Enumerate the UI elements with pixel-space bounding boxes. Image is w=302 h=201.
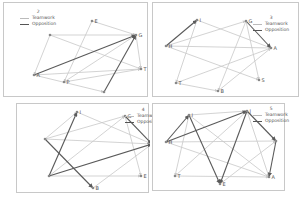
node-H [49, 34, 52, 37]
node-G [245, 20, 248, 23]
edge-opposition [34, 35, 136, 75]
edge-opposition [166, 111, 247, 142]
node-label: G [139, 32, 143, 38]
node-G [135, 34, 138, 37]
edge-teamwork [176, 83, 218, 91]
node-label: H [169, 139, 173, 145]
node-T [140, 68, 143, 71]
edge-opposition [269, 141, 276, 177]
edge-teamwork [93, 144, 150, 188]
edge-opposition [49, 112, 77, 176]
node-B [92, 187, 95, 190]
node-E [219, 183, 222, 186]
node-H [165, 141, 168, 144]
node-label: S [262, 77, 265, 83]
edge-opposition [220, 111, 247, 184]
edge-teamwork [189, 115, 269, 177]
node-A [268, 176, 271, 179]
edge-teamwork [218, 48, 271, 91]
edge-teamwork [218, 21, 246, 91]
node-label: P [67, 79, 70, 85]
network-panel-5: IJHTEA 5 Teamwork Opposition [152, 103, 285, 191]
node-H [165, 45, 168, 48]
teamwork-swatch [253, 115, 262, 116]
edge-teamwork [166, 46, 259, 80]
edge-opposition [189, 115, 220, 184]
edge-teamwork [45, 112, 77, 139]
node-I [196, 19, 199, 22]
edge-teamwork [45, 139, 150, 144]
node-A [270, 47, 273, 50]
edge-opposition [49, 144, 150, 176]
node-label: A [272, 174, 276, 180]
node-label: E [95, 18, 98, 24]
node-label: I [80, 109, 81, 115]
node-label: A [274, 45, 278, 51]
edge-opposition [45, 139, 93, 188]
legend-3: 3 Teamwork Opposition [253, 15, 289, 33]
network-panel-4: IGAEB 4 Teamwork Opposition [16, 103, 149, 193]
node-label: J [249, 108, 251, 114]
node-label: B [221, 88, 225, 94]
node-H [44, 138, 47, 141]
network-panel-2: AEGTP 2 Teamwork Opposition [3, 2, 148, 97]
node-label: E [223, 181, 226, 187]
node-label: H [169, 43, 173, 49]
opposition-swatch [125, 122, 134, 123]
teamwork-swatch [20, 18, 29, 19]
edge-teamwork [166, 46, 271, 48]
opposition-swatch [253, 121, 262, 122]
network-panel-3: HIGASTB 3 Teamwork Opposition [152, 2, 299, 97]
node-B [217, 90, 220, 93]
node-I [188, 114, 191, 117]
node-label: T [143, 66, 148, 72]
edge-teamwork [136, 35, 141, 69]
edge-teamwork [34, 35, 50, 75]
node-B [103, 91, 106, 94]
teamwork-swatch [253, 24, 262, 25]
node-A [33, 74, 36, 77]
edge-teamwork [175, 176, 269, 177]
edge-opposition [104, 35, 136, 92]
node-J [246, 110, 249, 113]
teamwork-swatch [125, 116, 134, 117]
node-label: A [37, 72, 41, 78]
node-I [76, 111, 79, 114]
edge-teamwork [166, 142, 269, 177]
edge-teamwork [92, 21, 136, 35]
edge-teamwork [166, 21, 246, 46]
opposition-swatch [20, 24, 29, 25]
node-S [258, 79, 261, 82]
node-T [174, 175, 177, 178]
legend-2: 2 Teamwork Opposition [20, 9, 56, 27]
opposition-swatch [253, 30, 262, 31]
node-D [48, 175, 51, 178]
edge-teamwork [49, 116, 125, 176]
node-label: I [192, 112, 193, 118]
node-E [140, 175, 143, 178]
legend-opposition: Opposition [32, 21, 56, 27]
node-label: I [200, 17, 201, 23]
node-T [175, 82, 178, 85]
node-E [91, 20, 94, 23]
node-K [275, 140, 278, 143]
node-label: B [96, 185, 100, 191]
node-P [63, 81, 66, 84]
node-label: E [144, 173, 147, 179]
legend-opposition: Opposition [265, 27, 289, 33]
legend-5: 5 Teamwork Opposition [253, 106, 289, 124]
legend-opposition: Opposition [265, 118, 289, 124]
node-label: G [249, 18, 253, 24]
